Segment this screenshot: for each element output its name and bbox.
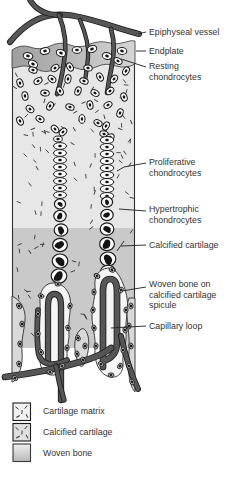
label-hypertrophic-chondrocytes: Hypertrophic chondrocytes: [149, 204, 201, 225]
legend-label-woven-bone: Woven bone: [43, 448, 92, 459]
legend-label-calcified-cartilage: Calcified cartilage: [43, 427, 112, 438]
label-capillary-loop: Capillary loop: [149, 321, 202, 332]
label-calcified-cartilage: Calcified cartilage: [149, 240, 218, 251]
label-woven-bone-spicule: Woven bone on calcified cartilage spicul…: [149, 279, 216, 311]
calcified-cartilage-swatch: [13, 424, 31, 442]
cartilage-matrix-swatch: [13, 403, 31, 421]
label-resting-chondrocytes: Resting chondrocytes: [149, 61, 201, 82]
label-proliferative-chondrocytes: Proliferative chondrocytes: [149, 157, 201, 178]
figure: Epiphyseal vessel Endplate Resting chond…: [0, 0, 244, 480]
woven-bone-swatch: [13, 444, 31, 462]
legend-label-cartilage-matrix: Cartilage matrix: [43, 406, 105, 417]
label-epiphyseal-vessel: Epiphyseal vessel: [149, 27, 219, 38]
label-endplate: Endplate: [149, 46, 184, 57]
